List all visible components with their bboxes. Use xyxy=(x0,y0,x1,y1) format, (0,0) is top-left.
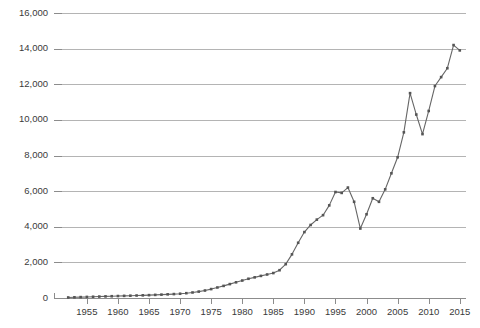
series-data-point xyxy=(328,204,331,207)
series-data-point xyxy=(421,133,424,136)
series-data-point xyxy=(129,294,132,297)
series-line xyxy=(68,45,460,297)
series-data-point xyxy=(297,241,300,244)
series-data-point xyxy=(427,110,430,113)
series-data-point xyxy=(316,218,319,221)
series-data-point xyxy=(272,272,275,275)
series-data-point xyxy=(253,276,256,279)
series-data-point xyxy=(86,296,89,299)
series-data-point xyxy=(79,296,82,299)
x-axis-labels-group: 1955196019651970197519801985199019952000… xyxy=(76,306,470,317)
series-data-point xyxy=(347,186,350,189)
series-data-point xyxy=(154,294,157,297)
series-data-point xyxy=(104,295,107,298)
series-data-point xyxy=(191,291,194,294)
x-axis-tick-label: 1980 xyxy=(232,306,253,317)
series-data-point xyxy=(260,275,263,278)
series-data-point xyxy=(396,156,399,159)
series-data-point xyxy=(216,286,219,289)
series-data-point xyxy=(266,273,269,276)
series-data-point xyxy=(142,294,145,297)
series-data-point xyxy=(458,49,461,52)
series-data-point xyxy=(291,253,294,256)
x-axis-tick-label: 2005 xyxy=(387,306,408,317)
x-axis-tick-label: 1995 xyxy=(325,306,346,317)
series-data-point xyxy=(403,131,406,134)
y-axis-tick-label: 16,000 xyxy=(19,7,48,18)
series-data-point xyxy=(73,296,76,299)
series-data-point xyxy=(229,283,232,286)
series-data-point xyxy=(247,277,250,280)
series-data-point xyxy=(204,289,207,292)
x-axis-tick-label: 2015 xyxy=(449,306,470,317)
x-axis-tick-label: 1955 xyxy=(76,306,97,317)
series-data-point xyxy=(434,85,437,88)
series-data-point xyxy=(92,295,95,298)
y-axis-tick-label: 14,000 xyxy=(19,42,48,53)
series-data-point xyxy=(415,113,418,116)
series-data-point xyxy=(378,201,381,204)
series-data-point xyxy=(148,294,151,297)
series-data-point xyxy=(303,231,306,234)
y-axis-tick-label: 12,000 xyxy=(19,78,48,89)
series-data-point xyxy=(365,213,368,216)
y-axis-tick-label: 0 xyxy=(43,292,48,303)
series-data-point xyxy=(241,279,244,282)
series-data-point xyxy=(222,285,225,288)
series-data-point xyxy=(371,197,374,200)
x-axis-tick-label: 1985 xyxy=(263,306,284,317)
series-data-point xyxy=(278,269,281,272)
series-data-point xyxy=(185,292,188,295)
y-axis-tick-label: 4,000 xyxy=(24,220,48,231)
y-axis-tick-label: 8,000 xyxy=(24,149,48,160)
x-axis-tick-label: 2010 xyxy=(418,306,439,317)
y-axis-tick-label: 10,000 xyxy=(19,113,48,124)
series-data-point xyxy=(123,295,126,298)
x-axis-tick-label: 2000 xyxy=(356,306,377,317)
gridlines-group xyxy=(62,14,466,263)
x-axis-tick-label: 1965 xyxy=(138,306,159,317)
y-axis-labels-group: 02,0004,0006,0008,00010,00012,00014,0001… xyxy=(19,7,62,303)
series-data-point xyxy=(67,296,70,299)
series-data-point xyxy=(334,191,337,194)
x-axis-tick-label: 1970 xyxy=(170,306,191,317)
series-data-point xyxy=(235,281,238,284)
series-data-point xyxy=(353,201,356,204)
series-data-point xyxy=(409,92,412,95)
series-data-point xyxy=(340,192,343,195)
series-data-point xyxy=(446,67,449,70)
series-data-point xyxy=(452,44,455,47)
series-data-point xyxy=(309,224,312,227)
series-data-point xyxy=(117,295,120,298)
series-data-point xyxy=(179,292,182,295)
series-data-point xyxy=(98,295,101,298)
x-axis-tick-label: 1975 xyxy=(201,306,222,317)
series-data-point xyxy=(210,288,213,291)
x-axis-group xyxy=(54,293,466,304)
series-data-point xyxy=(135,294,138,297)
series-data-point xyxy=(440,76,443,79)
series-data-point xyxy=(284,263,287,266)
series-data-point xyxy=(359,227,362,230)
x-axis-tick-label: 1960 xyxy=(107,306,128,317)
series-data-point xyxy=(322,214,325,217)
y-axis-tick-label: 2,000 xyxy=(24,256,48,267)
series-data-point xyxy=(166,293,169,296)
series-data-point xyxy=(390,172,393,175)
chart-canvas: 02,0004,0006,0008,00010,00012,00014,0001… xyxy=(0,0,480,328)
y-axis-tick-label: 6,000 xyxy=(24,185,48,196)
series-data-point xyxy=(197,290,200,293)
series-data-point xyxy=(384,188,387,191)
series-data-point xyxy=(160,293,163,296)
data-series-group xyxy=(67,44,461,299)
series-data-point xyxy=(173,293,176,296)
line-chart: 02,0004,0006,0008,00010,00012,00014,0001… xyxy=(0,0,480,328)
x-axis-tick-label: 1990 xyxy=(294,306,315,317)
series-data-point xyxy=(110,295,113,298)
